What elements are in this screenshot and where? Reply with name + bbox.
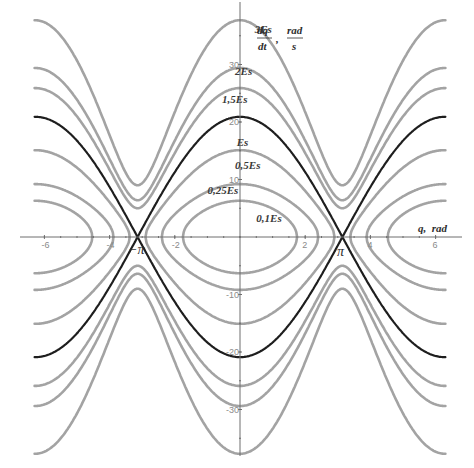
y-axis-title-num: dq: [257, 24, 269, 36]
pi-label: π: [337, 244, 345, 259]
x-axis-title: q, rad: [418, 222, 448, 234]
x-tick-label: 2: [302, 240, 307, 250]
curve-0,5Es-outer-upper: [35, 150, 130, 237]
y-axis-title: dq dt , rad s: [257, 24, 303, 52]
curve-0,5Es-outer-lower: [350, 237, 445, 324]
y-tick-label: 10: [229, 175, 239, 185]
level-label: 0,1Es: [256, 212, 281, 224]
level-label: Es: [236, 136, 249, 148]
minus-pi-label: −π: [128, 242, 145, 257]
curve-0,5Es-outer-lower: [35, 237, 130, 324]
y-axis-title-sep: ,: [275, 33, 279, 45]
y-tick-label: -10: [226, 290, 239, 300]
x-tick-label: -2: [172, 240, 180, 250]
level-label: 0,25Es: [207, 184, 238, 196]
phase-portrait-chart: -6-4-2246302010-10-20-30 3Es2Es1,5EsEs0,…: [0, 0, 474, 468]
y-axis-title-unit-num: rad: [287, 24, 303, 36]
x-tick-label: -4: [107, 240, 115, 250]
x-tick-label: 4: [367, 240, 372, 250]
level-label: 2Es: [234, 65, 252, 77]
y-axis-title-unit-den: s: [291, 40, 296, 52]
x-tick-label: -6: [41, 240, 49, 250]
curve-0,1Es-outer-upper: [35, 201, 93, 237]
y-axis-title-den: dt: [258, 40, 268, 52]
level-label: 0,5Es: [235, 159, 260, 171]
level-label: 1,5Es: [222, 93, 247, 105]
y-tick-label: -30: [226, 405, 239, 415]
x-tick-label: 6: [433, 240, 438, 250]
y-tick-label: -20: [226, 347, 239, 357]
y-tick-label: 20: [229, 117, 239, 127]
